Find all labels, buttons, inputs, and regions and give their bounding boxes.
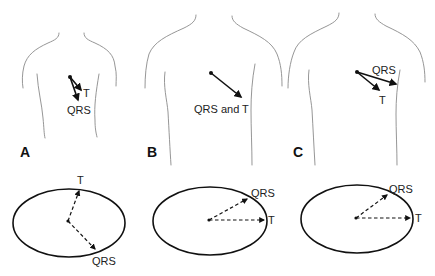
t-loop-vector-a (68, 191, 79, 221)
t-label-c: T (379, 94, 386, 106)
panel-label-a: A (20, 144, 30, 160)
qrs-label-a: QRS (67, 104, 91, 116)
torso-outline-b (145, 15, 282, 165)
t-label-a: T (83, 87, 90, 99)
qrs-loop-vector-a (68, 221, 95, 249)
qrs-loop-vector-b (209, 199, 247, 220)
qrs-loop-label-c: QRS (389, 183, 413, 195)
qrs-loop-label-b: QRS (251, 187, 275, 199)
qrs-t-vector-b (211, 73, 241, 97)
panel-b: QRS and T B QRS T (145, 15, 282, 255)
panel-a: T QRS A T QRS (13, 33, 125, 267)
qrs-label-c: QRS (372, 64, 396, 76)
qrs-vector-a (70, 77, 78, 100)
torso-outline-c (288, 13, 425, 165)
qrs-loop-vector-c (356, 195, 387, 218)
t-loop-label-a: T (77, 174, 84, 186)
vector-loop-a (13, 189, 125, 257)
panel-label-c: C (293, 144, 303, 160)
t-loop-label-b: T (268, 214, 275, 226)
t-loop-label-c: T (415, 212, 422, 224)
panel-label-b: B (147, 144, 157, 160)
qrs-loop-label-a: QRS (92, 255, 116, 267)
diagram-canvas: T QRS A T QRS QRS and T B QRS T (0, 0, 435, 276)
panel-c: QRS T C QRS T (288, 13, 425, 253)
torso-outline-a (22, 33, 116, 138)
qrs-t-label-b: QRS and T (194, 103, 249, 115)
